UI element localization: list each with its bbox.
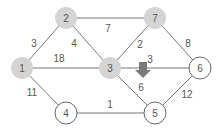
node-7: 7	[144, 7, 166, 29]
edge-weight-label: 12	[181, 89, 193, 100]
node-6: 6	[189, 57, 211, 79]
edge-weight-label: 3	[147, 54, 153, 65]
edge-weight-label: 4	[71, 38, 77, 49]
node-2: 2	[55, 7, 77, 29]
edge-weight-label: 2	[137, 39, 143, 50]
node-4: 4	[55, 102, 77, 124]
edge-weight-label: 11	[27, 87, 38, 98]
node-3: 3	[99, 57, 121, 79]
node-label: 5	[152, 108, 158, 119]
node-1: 1	[11, 57, 33, 79]
edge-weight-label: 1	[107, 99, 113, 110]
node-label: 6	[197, 63, 203, 74]
graph-diagram: 37418283611112 1234567	[0, 0, 224, 137]
edge-weight-label: 6	[138, 82, 144, 93]
node-5: 5	[144, 102, 166, 124]
node-label: 3	[107, 63, 113, 74]
graph-svg: 37418283611112 1234567	[0, 0, 224, 137]
edge-weight-label: 18	[53, 53, 65, 64]
node-label: 2	[63, 13, 69, 24]
edge-weight-label: 8	[185, 38, 191, 49]
node-label: 1	[19, 63, 25, 74]
edge-weight-label: 7	[105, 23, 111, 34]
node-label: 7	[152, 13, 158, 24]
edge-weight-label: 3	[31, 38, 37, 49]
node-label: 4	[63, 108, 69, 119]
